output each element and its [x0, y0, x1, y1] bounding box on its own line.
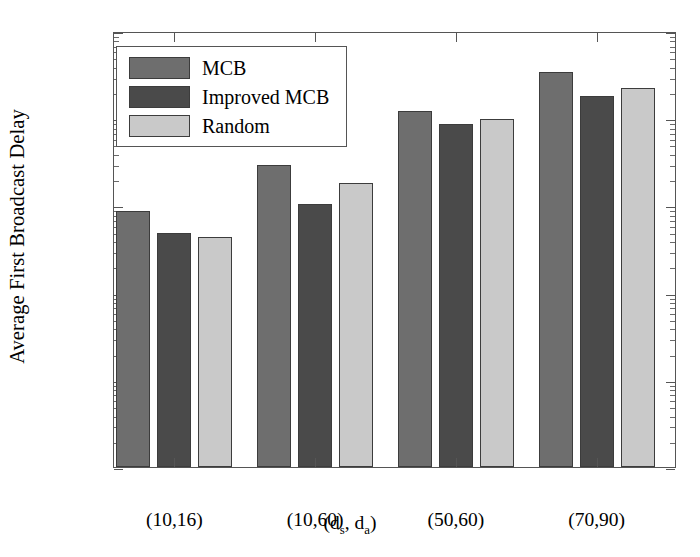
x-axis-tick: [174, 458, 175, 467]
y-axis-minor-tick: [670, 242, 675, 243]
y-axis-major-tick: [666, 207, 675, 208]
bar: [439, 124, 473, 467]
y-axis-major-tick: [666, 295, 675, 296]
y-axis-minor-tick: [670, 299, 675, 300]
y-axis-minor-tick: [670, 68, 675, 69]
y-axis-minor-tick: [670, 124, 675, 125]
y-axis-major-tick: [114, 207, 123, 208]
legend-label: Random: [202, 115, 270, 138]
legend-swatch: [129, 57, 190, 79]
y-axis-minor-tick: [670, 253, 675, 254]
y-axis-minor-tick: [670, 234, 675, 235]
y-axis-minor-tick: [670, 37, 675, 38]
y-axis-minor-tick: [670, 417, 675, 418]
y-axis-minor-tick: [670, 386, 675, 387]
legend-item: MCB: [129, 55, 246, 81]
bar: [116, 211, 150, 467]
bar: [339, 183, 373, 467]
bar: [157, 233, 191, 467]
bar: [480, 119, 514, 467]
y-axis-major-tick: [114, 469, 123, 470]
y-axis-minor-tick: [670, 321, 675, 322]
y-axis-minor-tick: [114, 166, 119, 167]
legend-swatch: [129, 86, 190, 108]
y-axis-minor-tick: [670, 155, 675, 156]
chart-legend: MCBImproved MCBRandom: [116, 46, 347, 147]
y-axis-minor-tick: [670, 221, 675, 222]
y-axis-title: Average First Broadcast Delay: [6, 2, 29, 472]
y-axis-minor-tick: [670, 443, 675, 444]
x-axis-tick: [174, 33, 175, 42]
y-axis-minor-tick: [670, 303, 675, 304]
y-axis-minor-tick: [670, 94, 675, 95]
y-axis-minor-tick: [670, 227, 675, 228]
y-axis-minor-tick: [670, 268, 675, 269]
bar: [398, 111, 432, 467]
y-axis-minor-tick: [670, 59, 675, 60]
y-axis-minor-tick: [670, 47, 675, 48]
bar: [198, 237, 232, 467]
y-axis-minor-tick: [670, 427, 675, 428]
x-axis-tick: [597, 33, 598, 42]
y-axis-minor-tick: [114, 41, 119, 42]
y-axis-minor-tick: [670, 140, 675, 141]
y-axis-minor-tick: [670, 134, 675, 135]
y-axis-minor-tick: [670, 401, 675, 402]
y-axis-minor-tick: [670, 314, 675, 315]
y-axis-minor-tick: [670, 308, 675, 309]
y-axis-minor-tick: [670, 356, 675, 357]
y-axis-minor-tick: [670, 52, 675, 53]
bar: [539, 72, 573, 467]
y-axis-minor-tick: [670, 408, 675, 409]
y-axis-minor-tick: [670, 390, 675, 391]
x-axis-tick: [456, 458, 457, 467]
bar: [580, 96, 614, 467]
legend-item: Random: [129, 113, 270, 139]
y-axis-minor-tick: [670, 216, 675, 217]
y-axis-minor-tick: [114, 37, 119, 38]
y-axis-minor-tick: [670, 329, 675, 330]
bar: [298, 204, 332, 467]
y-axis-minor-tick: [670, 166, 675, 167]
y-axis-major-tick: [666, 120, 675, 121]
y-axis-minor-tick: [670, 211, 675, 212]
y-axis-major-tick: [666, 33, 675, 34]
bar: [257, 165, 291, 467]
y-axis-minor-tick: [670, 340, 675, 341]
x-axis-tick: [597, 458, 598, 467]
legend-item: Improved MCB: [129, 84, 329, 110]
y-axis-minor-tick: [670, 129, 675, 130]
y-axis-minor-tick: [670, 79, 675, 80]
y-axis-major-tick: [666, 469, 675, 470]
x-axis-title: (ds, da): [0, 512, 700, 534]
y-axis-minor-tick: [670, 146, 675, 147]
x-axis-tick: [315, 458, 316, 467]
y-axis-minor-tick: [114, 181, 119, 182]
y-axis-minor-tick: [670, 41, 675, 42]
y-axis-minor-tick: [670, 395, 675, 396]
x-axis-tick: [456, 33, 457, 42]
legend-swatch: [129, 115, 190, 137]
bar: [621, 88, 655, 467]
y-axis-minor-tick: [114, 155, 119, 156]
y-axis-major-tick: [114, 33, 123, 34]
y-axis-minor-tick: [670, 181, 675, 182]
legend-label: MCB: [202, 57, 246, 80]
y-axis-major-tick: [666, 382, 675, 383]
legend-label: Improved MCB: [202, 86, 329, 109]
figure-canvas: Average First Broadcast Delay 1001011021…: [0, 0, 700, 557]
x-axis-tick: [315, 33, 316, 42]
